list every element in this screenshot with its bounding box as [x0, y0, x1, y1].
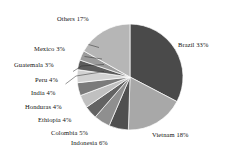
pie-label-india: India 4%	[31, 89, 55, 97]
pie-label-indonesia: Indonesia 6%	[71, 139, 108, 147]
pie-label-brazil: Brazil 33%	[178, 41, 208, 49]
pie-label-colombia: Colombia 5%	[51, 129, 88, 137]
pie-label-guatemala: Guatemala 3%	[14, 61, 54, 69]
pie-label-honduras: Honduras 4%	[25, 103, 62, 111]
pie-label-ethiopia: Ethiopia 4%	[38, 116, 71, 124]
pie-label-vietnam: Vietnam 18%	[152, 131, 189, 139]
pie-label-others: Others 17%	[57, 15, 89, 23]
pie-label-peru: Peru 4%	[35, 76, 58, 84]
pie-label-mexico: Mexico 3%	[34, 45, 65, 53]
pie-slice-group	[77, 24, 183, 130]
pie-chart-figure: Brazil 33% Vietnam 18% Indonesia 6% Colo…	[0, 0, 231, 154]
